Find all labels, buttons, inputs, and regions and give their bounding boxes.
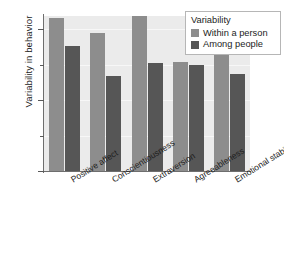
legend-title: Variability	[191, 15, 276, 26]
bar[interactable]	[49, 18, 64, 171]
y-axis-tick	[38, 100, 44, 101]
x-axis-tick-label: Agreeableness	[192, 176, 197, 184]
x-axis-tick-label: Emotional stability	[233, 176, 238, 184]
bar[interactable]	[90, 33, 105, 171]
legend-label-within: Within a person	[203, 28, 268, 39]
legend-item-among-people[interactable]: Among people	[191, 39, 276, 50]
x-axis-tick-label: Extraversion	[151, 176, 156, 184]
legend-item-within-a-person[interactable]: Within a person	[191, 28, 276, 39]
bar[interactable]	[132, 16, 147, 171]
y-axis-tick	[38, 29, 44, 30]
y-axis-line	[43, 14, 44, 173]
legend: Variability Within a person Among people	[185, 11, 281, 55]
y-axis-tick	[38, 171, 44, 172]
legend-swatch-icon-within	[191, 29, 199, 37]
bar[interactable]	[65, 46, 80, 171]
legend-label-among: Among people	[203, 39, 263, 50]
legend-swatch-icon-among	[191, 41, 199, 49]
x-axis-tick-label: Positive affect	[69, 176, 74, 184]
x-axis-tick-label: Conscientiousness	[110, 176, 115, 184]
y-axis-tick-minor	[40, 136, 44, 137]
bar-chart-figure: Variability in behavior 00.51 Positive a…	[0, 0, 284, 261]
y-axis-title: Variability in behavior	[23, 0, 34, 142]
y-axis-tick-minor	[40, 65, 44, 66]
